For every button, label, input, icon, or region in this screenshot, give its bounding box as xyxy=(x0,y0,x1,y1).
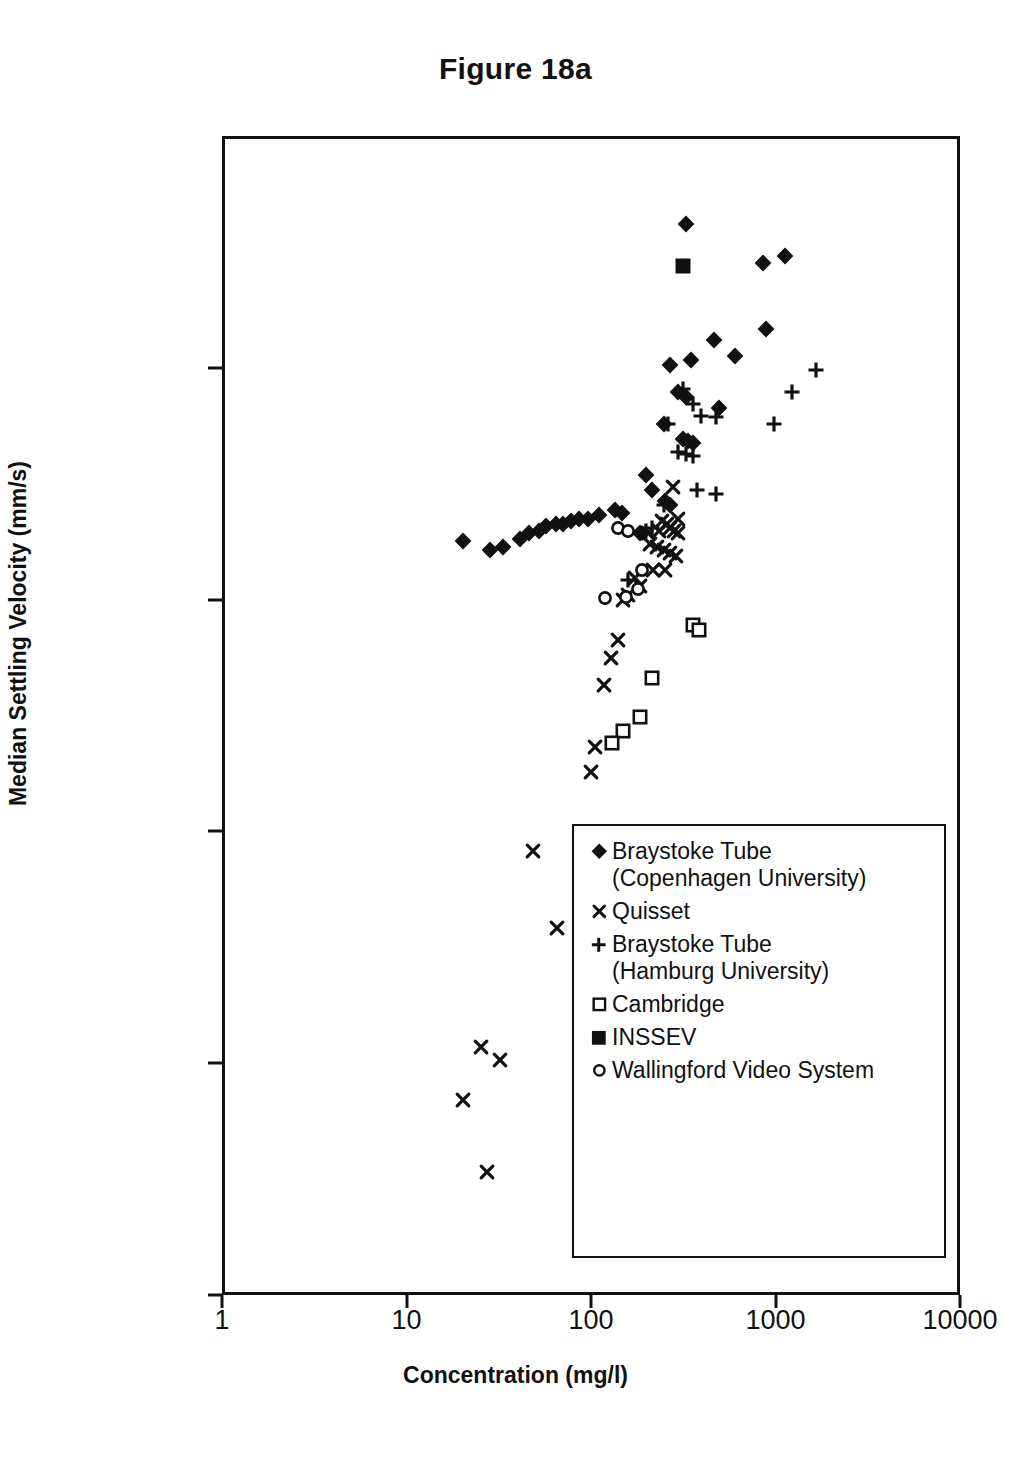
legend-label: Braystoke Tube (Copenhagen University) xyxy=(612,838,866,892)
data-point xyxy=(613,504,631,522)
data-point xyxy=(586,738,604,756)
data-point xyxy=(726,347,744,365)
data-point xyxy=(602,649,620,667)
data-point xyxy=(644,670,660,686)
y-tick-mark xyxy=(208,830,222,833)
chart-legend: Braystoke Tube (Copenhagen University)Qu… xyxy=(572,824,946,1258)
data-point xyxy=(683,447,702,466)
data-point xyxy=(595,676,613,694)
data-point xyxy=(664,478,682,496)
filled-diamond-icon xyxy=(586,838,612,865)
data-point xyxy=(511,530,529,548)
data-point xyxy=(691,622,707,638)
data-point xyxy=(688,481,707,500)
data-point xyxy=(706,408,725,427)
data-point xyxy=(705,331,723,349)
figure-container: Figure 18a Median Settling Velocity (mm/… xyxy=(0,0,1031,1470)
data-point xyxy=(706,484,725,503)
data-point xyxy=(659,415,678,434)
legend-label: Braystoke Tube (Hamburg University) xyxy=(612,931,829,985)
y-axis-title: Median Settling Velocity (mm/s) xyxy=(5,354,32,914)
data-point xyxy=(765,415,784,434)
legend-label: Wallingford Video System xyxy=(612,1057,874,1084)
plus-icon xyxy=(586,931,612,958)
legend-entry: Wallingford Video System xyxy=(586,1057,934,1084)
data-point xyxy=(637,521,656,540)
x-axis-title: Concentration (mg/l) xyxy=(0,1362,1031,1389)
x-cross-icon xyxy=(586,898,612,925)
legend-entry: Braystoke Tube (Hamburg University) xyxy=(586,931,934,985)
data-point xyxy=(609,631,627,649)
x-tick-mark xyxy=(959,1295,962,1308)
legend-label: Quisset xyxy=(612,898,690,925)
x-tick-label: 10000 xyxy=(850,1305,1031,1336)
data-point xyxy=(597,590,613,606)
data-point xyxy=(669,524,687,542)
legend-label: INSSEV xyxy=(612,1024,696,1051)
open-circle-icon xyxy=(586,1057,612,1084)
data-point xyxy=(634,562,650,578)
data-point xyxy=(754,254,772,272)
data-point xyxy=(472,1038,490,1056)
data-point xyxy=(548,919,566,937)
x-tick-mark xyxy=(590,1295,593,1308)
data-point xyxy=(454,532,472,550)
legend-entry: Quisset xyxy=(586,898,934,925)
data-point xyxy=(661,356,679,374)
data-point xyxy=(491,1051,509,1069)
x-tick-mark xyxy=(405,1295,408,1308)
data-point xyxy=(682,351,700,369)
x-tick-mark xyxy=(774,1295,777,1308)
data-point xyxy=(654,495,673,514)
legend-entry: Cambridge xyxy=(586,991,934,1018)
filled-square-icon xyxy=(586,1024,612,1051)
x-tick-mark xyxy=(221,1295,224,1308)
y-tick-mark xyxy=(208,366,222,369)
data-point xyxy=(776,247,794,265)
data-point xyxy=(757,320,775,338)
legend-label: Cambridge xyxy=(612,991,725,1018)
data-point xyxy=(632,709,648,725)
data-point xyxy=(478,1163,496,1181)
page-title: Figure 18a xyxy=(0,52,1031,86)
data-point xyxy=(782,382,801,401)
data-point xyxy=(675,258,692,275)
data-point xyxy=(677,215,695,233)
data-point xyxy=(582,763,600,781)
data-point xyxy=(630,581,646,597)
open-square-icon xyxy=(586,991,612,1018)
legend-entry: Braystoke Tube (Copenhagen University) xyxy=(586,838,934,892)
data-point xyxy=(481,541,499,559)
data-point xyxy=(454,1091,472,1109)
y-tick-mark xyxy=(208,1062,222,1065)
y-tick-mark xyxy=(208,598,222,601)
data-point xyxy=(524,842,542,860)
data-point xyxy=(620,523,636,539)
data-point xyxy=(807,360,826,379)
legend-entry: INSSEV xyxy=(586,1024,934,1051)
data-point xyxy=(604,735,620,751)
